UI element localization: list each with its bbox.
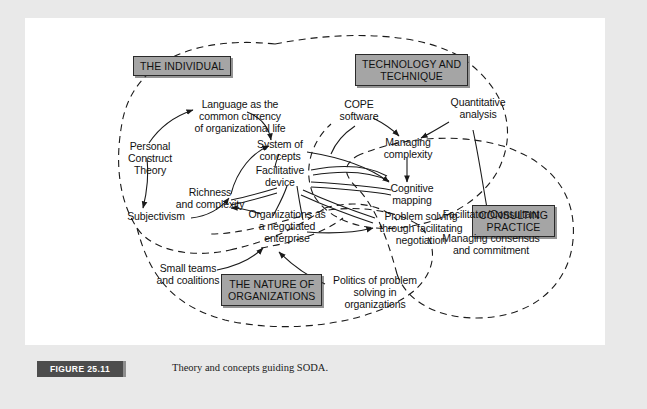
link-quantitative-facilitator (473, 130, 487, 208)
node-small-teams-and-coalitions: Small teams and coalitions (145, 262, 231, 286)
node-language: Language as the common currency of organ… (185, 98, 295, 134)
region-label-technology-and-technique: TECHNOLOGY AND TECHNIQUE (355, 54, 468, 86)
figure-container: THE INDIVIDUAL TECHNOLOGY AND TECHNIQUE … (0, 0, 647, 409)
node-personal-construct-theory: Personal Construct Theory (113, 140, 187, 176)
region-label-the-individual: THE INDIVIDUAL (133, 56, 231, 76)
node-organizations-as-a-negotiated-enterprise: Organizations as a negotiated enterprise (241, 208, 333, 244)
node-quantitative-analysis: Quantitative analysis (441, 96, 515, 120)
node-cognitive-mapping: Cognitive mapping (381, 182, 443, 206)
link-cope-left (331, 126, 355, 154)
node-politics-of-problem-solving: Politics of problem solving in organizat… (321, 274, 429, 310)
link-facilitative-cognitive-b (313, 172, 389, 181)
link-facilitative-cognitive-c (311, 182, 391, 190)
figure-panel: THE INDIVIDUAL TECHNOLOGY AND TECHNIQUE … (25, 18, 605, 345)
figure-number-badge: FIGURE 25.11 (37, 361, 126, 377)
node-managing-consensus-and-commitment: Managing consensus and commitment (437, 232, 545, 256)
region-label-the-nature-of-organizations: THE NATURE OF ORGANIZATIONS (221, 274, 322, 306)
node-managing-complexity: Managing complexity (377, 136, 439, 160)
node-cope-software: COPE software (335, 98, 383, 122)
node-facilitator-consultant: Facilitator/Consultant (429, 208, 553, 220)
link-facilitative-cognitive-a (311, 167, 387, 176)
figure-caption: Theory and concepts guiding SODA. (172, 362, 328, 373)
node-richness-and-complexity: Richness and complexity (165, 186, 255, 210)
node-system-of-concepts: System of concepts (247, 138, 313, 162)
node-facilitative-device: Facilitative device (247, 164, 313, 188)
node-subjectivism: Subjectivism (117, 210, 195, 222)
